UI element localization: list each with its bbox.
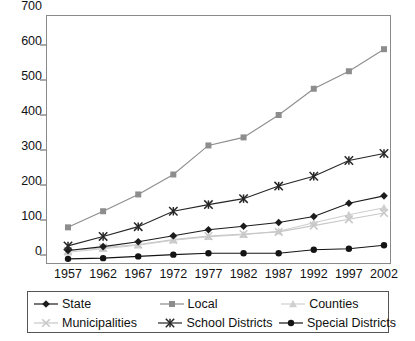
legend-label: School Districts [186, 316, 272, 330]
y-tick-label: 400 [2, 105, 42, 117]
legend-row: MunicipalitiesSchool DistrictsSpecial Di… [28, 313, 388, 332]
chart-legend: StateLocalCountiesMunicipalitiesSchool D… [27, 291, 389, 333]
legend-label: Municipalities [62, 316, 137, 330]
star-marker-icon [157, 316, 183, 330]
legend-item-local[interactable]: Local [159, 294, 281, 313]
legend-row: StateLocalCounties [28, 294, 388, 313]
y-tick-label: 700 [2, 0, 42, 12]
legend-item-special-districts[interactable]: Special Districts [278, 313, 388, 332]
triangle-marker-icon [280, 297, 306, 311]
plot-area [46, 15, 391, 264]
y-tick-label: 300 [2, 140, 42, 152]
legend-item-counties[interactable]: Counties [280, 294, 388, 313]
legend-label: Counties [309, 297, 358, 311]
y-axis: 0100200300400500600700 [0, 0, 42, 280]
x-axis: 1957196219671972197719821987199219972002 [46, 267, 391, 287]
y-tick-label: 0 [2, 245, 42, 257]
series-local [65, 46, 387, 230]
square-marker-icon [159, 297, 185, 311]
line-chart: 0100200300400500600700 19571962196719721… [0, 0, 415, 341]
legend-label: Local [188, 297, 218, 311]
y-tick-label: 500 [2, 70, 42, 82]
legend-label: Special Districts [307, 316, 396, 330]
diamond-marker-icon [33, 297, 59, 311]
legend-item-municipalities[interactable]: Municipalities [28, 313, 157, 332]
legend-label: State [62, 297, 91, 311]
y-tick-label: 600 [2, 35, 42, 47]
y-tick-label: 200 [2, 175, 42, 187]
x-tick-label: 2002 [362, 267, 406, 281]
legend-item-state[interactable]: State [28, 294, 159, 313]
y-tick-label: 100 [2, 210, 42, 222]
series-counties [64, 204, 388, 256]
circle-marker-icon [278, 316, 304, 330]
cross-marker-icon [33, 316, 59, 330]
legend-item-school-districts[interactable]: School Districts [157, 313, 278, 332]
series-layer [47, 16, 390, 263]
